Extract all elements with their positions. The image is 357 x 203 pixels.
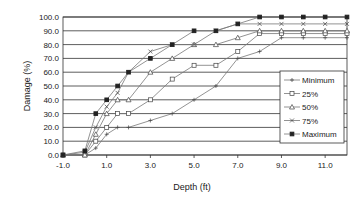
filled-square-marker-icon — [236, 22, 240, 26]
legend: Minimum25%50%75%Maximum — [280, 71, 344, 143]
x-tick-label: 7.0 — [232, 161, 244, 170]
x-tick-label: 3.0 — [145, 161, 157, 170]
square-marker-icon — [116, 112, 120, 116]
y-axis-ticks: 0.010.020.030.040.050.060.070.080.090.01… — [39, 13, 60, 160]
filled-square-marker-icon — [192, 29, 196, 33]
square-marker-icon — [214, 63, 218, 67]
legend-label: 25% — [302, 90, 318, 99]
filled-square-marker-icon — [345, 15, 349, 19]
filled-square-marker-icon — [290, 132, 294, 136]
y-tick-label: 0.0 — [48, 151, 60, 160]
filled-square-marker-icon — [258, 15, 262, 19]
x-tick-label: 11.0 — [318, 161, 334, 170]
legend-label: Minimum — [302, 76, 335, 85]
y-tick-label: 40.0 — [43, 96, 59, 105]
y-tick-label: 10.0 — [43, 137, 59, 146]
triangle-marker-icon — [93, 132, 98, 137]
depth-damage-chart: 0.010.020.030.040.050.060.070.080.090.01… — [0, 0, 357, 203]
square-marker-icon — [236, 50, 240, 54]
y-tick-label: 50.0 — [43, 82, 59, 91]
square-marker-icon — [192, 63, 196, 67]
legend-label: Maximum — [302, 130, 337, 139]
y-tick-label: 20.0 — [43, 123, 59, 132]
filled-square-marker-icon — [105, 98, 109, 102]
square-marker-icon — [290, 92, 294, 96]
y-tick-label: 60.0 — [43, 68, 59, 77]
square-marker-icon — [127, 112, 131, 116]
x-tick-label: 9.0 — [276, 161, 288, 170]
filled-square-marker-icon — [116, 84, 120, 88]
x-tick-label: -1.0 — [56, 161, 70, 170]
y-axis-label: Damage (%) — [22, 61, 32, 112]
square-marker-icon — [170, 77, 174, 81]
y-tick-label: 90.0 — [43, 27, 59, 36]
filled-square-marker-icon — [280, 15, 284, 19]
y-tick-label: 80.0 — [43, 41, 59, 50]
y-tick-label: 100.0 — [39, 13, 60, 22]
filled-square-marker-icon — [170, 43, 174, 47]
square-marker-icon — [105, 125, 109, 129]
filled-square-marker-icon — [83, 149, 87, 153]
filled-square-marker-icon — [94, 112, 98, 116]
y-tick-label: 30.0 — [43, 110, 59, 119]
x-axis-ticks: -1.01.03.05.07.09.011.0 — [56, 155, 333, 170]
x-tick-label: 5.0 — [189, 161, 201, 170]
filled-square-marker-icon — [61, 153, 65, 157]
legend-label: 75% — [302, 117, 318, 126]
filled-square-marker-icon — [214, 29, 218, 33]
filled-square-marker-icon — [302, 15, 306, 19]
y-tick-label: 70.0 — [43, 54, 59, 63]
legend-label: 50% — [302, 103, 318, 112]
filled-square-marker-icon — [323, 15, 327, 19]
x-tick-label: 1.0 — [101, 161, 113, 170]
x-axis-label: Depth (ft) — [173, 182, 211, 192]
square-marker-icon — [148, 98, 152, 102]
filled-square-marker-icon — [149, 57, 153, 61]
filled-square-marker-icon — [127, 70, 131, 74]
square-marker-icon — [94, 139, 98, 143]
